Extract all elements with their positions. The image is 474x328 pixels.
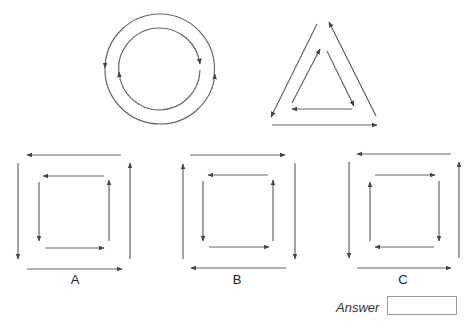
answer-label: Answer	[336, 300, 379, 315]
outer-tri-left	[271, 24, 317, 117]
outer-circle-left-arc	[105, 14, 214, 76]
circle-example	[105, 14, 215, 124]
option-c-figure	[349, 154, 459, 268]
inner-tri-right	[327, 51, 354, 106]
option-a-figure	[18, 155, 130, 269]
triangle-example	[271, 22, 377, 125]
inner-tri-left	[292, 49, 320, 103]
inner-circle-top-arc	[119, 28, 200, 74]
outer-circle-right-arc	[105, 68, 215, 124]
option-a-label: A	[71, 272, 80, 287]
option-b-label: B	[233, 272, 242, 287]
option-c-label: C	[398, 272, 407, 287]
answer-input[interactable]	[387, 296, 457, 315]
inner-circle-bottom-arc	[119, 70, 200, 110]
option-b-figure	[183, 155, 295, 268]
